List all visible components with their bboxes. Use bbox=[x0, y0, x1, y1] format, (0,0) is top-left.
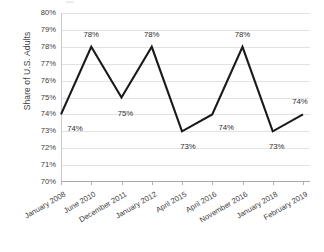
x-axis-tick-labels: January 2008June 2010December 2011Januar… bbox=[0, 0, 324, 252]
line-chart: Share of U.S. Adults 80%79%78%77%76%75%7… bbox=[0, 0, 324, 252]
